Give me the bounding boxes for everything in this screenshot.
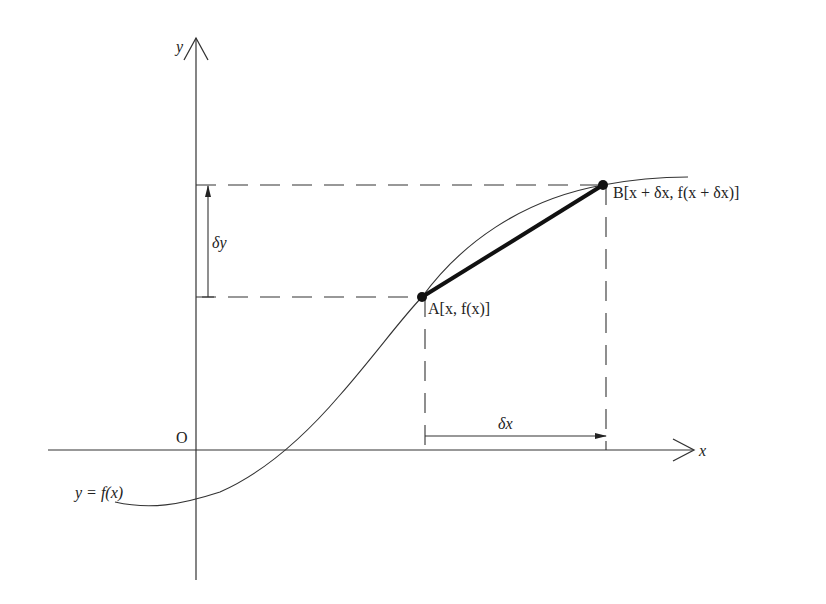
dx-label: δx xyxy=(498,415,513,432)
point-A xyxy=(417,292,427,302)
dy-label: δy xyxy=(212,234,227,252)
curve-label: y = f(x) xyxy=(73,484,123,502)
point-A-label: A[x, f(x)] xyxy=(428,300,490,318)
origin-label: O xyxy=(176,429,188,446)
chord-AB xyxy=(422,185,603,297)
point-B xyxy=(598,180,608,190)
derivative-chord-diagram: y x O y = f(x) A[x, f(x)] B[x + δx, f(x … xyxy=(0,0,826,604)
point-B-label: B[x + δx, f(x + δx)] xyxy=(613,184,739,202)
y-axis-label: y xyxy=(174,38,184,56)
guide-lines xyxy=(196,185,606,450)
function-curve xyxy=(115,177,688,506)
axes xyxy=(48,38,694,580)
x-axis-label: x xyxy=(698,442,706,459)
